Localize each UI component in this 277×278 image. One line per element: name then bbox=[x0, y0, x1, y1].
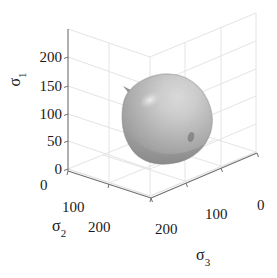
sigma2-subscript: 2 bbox=[61, 227, 67, 239]
sigma1-subscript: 1 bbox=[17, 72, 29, 78]
surface3d-plot: 200 150 100 50 0 0 100 200 200 100 0 σ1 … bbox=[0, 0, 277, 278]
sigma3-subscript: 3 bbox=[205, 256, 211, 268]
sigma1-tick-0: 0 bbox=[14, 162, 62, 177]
sigma2-tick-200: 200 bbox=[88, 220, 111, 235]
sigma2-glyph: σ bbox=[52, 217, 61, 234]
sigma1-tick-50: 50 bbox=[14, 134, 62, 149]
sigma1-axis-label: σ1 bbox=[7, 65, 26, 87]
sigma3-tick-100: 100 bbox=[205, 207, 228, 222]
sigma2-tick-0: 0 bbox=[40, 178, 48, 193]
sigma1-tick-100: 100 bbox=[14, 107, 62, 122]
sigma3-tick-200: 200 bbox=[155, 222, 178, 237]
sigma3-axis-label: σ3 bbox=[196, 247, 210, 266]
sigma3-glyph: σ bbox=[196, 246, 205, 263]
yield-surface bbox=[122, 74, 212, 164]
sigma3-tick-0: 0 bbox=[257, 198, 265, 213]
sigma2-axis-label: σ2 bbox=[52, 218, 66, 237]
sigma1-glyph: σ bbox=[6, 78, 23, 87]
sigma2-tick-100: 100 bbox=[62, 200, 85, 215]
sigma1-tick-200: 200 bbox=[14, 50, 62, 65]
